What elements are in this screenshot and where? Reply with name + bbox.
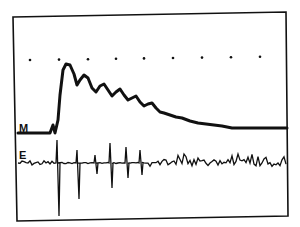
time-marker-dot: [230, 56, 233, 59]
m-trace-label: M: [19, 122, 28, 134]
time-marker-dot: [172, 57, 175, 60]
time-marker-dot: [143, 57, 146, 60]
time-marker-dot: [87, 58, 90, 61]
time-marker-dot: [259, 56, 262, 59]
time-marker-dot: [58, 58, 61, 61]
time-marker-dots: [29, 56, 262, 62]
time-marker-dot: [201, 56, 204, 59]
oscilloscope-figure: M E: [0, 0, 300, 227]
e-trace-line: [18, 140, 286, 216]
time-marker-dot: [29, 59, 32, 62]
e-trace-label: E: [19, 149, 26, 161]
time-marker-dot: [115, 58, 118, 61]
plot-frame: [13, 12, 288, 221]
m-trace-line: [18, 64, 287, 133]
